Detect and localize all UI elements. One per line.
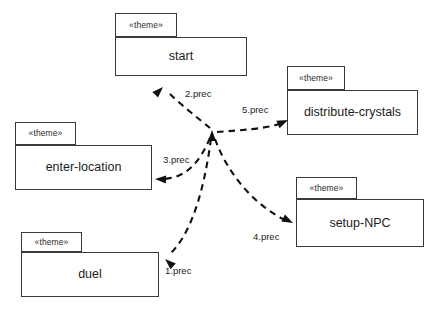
stereotype-label: «theme» — [35, 238, 69, 247]
arrowhead-edge-3 — [155, 175, 166, 183]
package-body-start: start — [115, 37, 247, 76]
package-body-duel: duel — [21, 252, 159, 297]
package-name-label: enter-location — [46, 161, 122, 174]
dependency-arrow-edge-5 — [217, 124, 279, 132]
package-name-label: distribute-crystals — [304, 106, 401, 119]
dependency-arrow-edge-4 — [215, 139, 283, 219]
edge-label-4-prec: 4.prec — [253, 232, 279, 242]
stereotype-label: «theme» — [310, 184, 344, 193]
package-diagram-canvas: «theme» start «theme» distribute-crystal… — [0, 0, 442, 316]
package-name-label: duel — [78, 268, 102, 281]
edge-label-1-prec: 1.prec — [165, 266, 191, 276]
package-tab-start: «theme» — [115, 13, 177, 37]
arrowhead-edge-4 — [281, 214, 294, 226]
package-body-distribute-crystals: distribute-crystals — [287, 90, 418, 135]
package-tab-enter-location: «theme» — [15, 122, 76, 145]
edge-label-2-prec: 2.prec — [185, 89, 211, 99]
stereotype-label: «theme» — [29, 129, 63, 138]
package-body-setup-npc: setup-NPC — [296, 199, 424, 247]
arrowhead-edge-hub — [208, 130, 216, 141]
package-name-label: setup-NPC — [329, 217, 390, 230]
package-tab-setup-npc: «theme» — [296, 177, 357, 199]
edge-label-5-prec: 5.prec — [242, 105, 268, 115]
package-name-label: start — [169, 50, 193, 63]
edge-label-3-prec: 3.prec — [163, 155, 189, 165]
stereotype-label: «theme» — [129, 21, 163, 30]
arrowhead-edge-2 — [152, 84, 165, 97]
package-body-enter-location: enter-location — [15, 145, 152, 190]
package-tab-distribute-crystals: «theme» — [287, 66, 345, 90]
package-tab-duel: «theme» — [21, 232, 82, 252]
stereotype-label: «theme» — [299, 74, 333, 83]
